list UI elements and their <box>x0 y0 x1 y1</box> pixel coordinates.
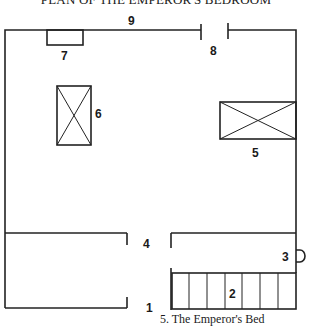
label-5: 5 <box>252 146 259 160</box>
label-2: 2 <box>229 287 236 301</box>
legend-item-5: 5. The Emperor's Bed <box>160 312 265 327</box>
outer-walls <box>5 23 296 308</box>
label-1: 1 <box>146 301 153 315</box>
item-6-furniture <box>57 86 91 145</box>
label-7: 7 <box>61 49 68 63</box>
label-3: 3 <box>282 250 289 264</box>
item-7-box <box>47 30 83 45</box>
label-4: 4 <box>143 237 150 251</box>
item-3-knob <box>296 250 305 262</box>
label-9: 9 <box>128 14 135 28</box>
item-5-emperors-bed <box>220 102 296 139</box>
label-8: 8 <box>210 44 217 58</box>
lower-left-partition <box>5 233 127 245</box>
label-6: 6 <box>95 107 102 121</box>
